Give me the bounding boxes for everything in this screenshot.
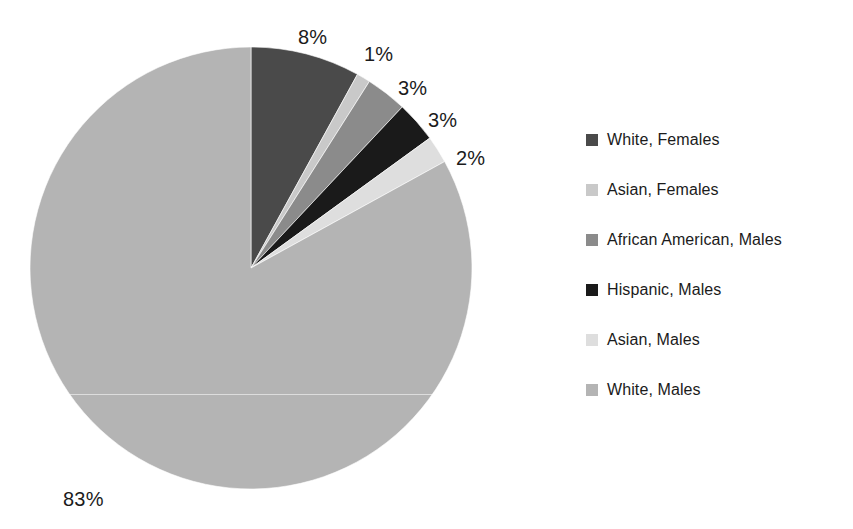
pie-data-label: 3% [428, 110, 457, 130]
legend-item[interactable]: Asian, Females [586, 181, 848, 231]
legend-item[interactable]: White, Males [586, 381, 848, 431]
legend-swatch-icon [586, 234, 598, 246]
legend-swatch-icon [586, 284, 598, 296]
pie-data-label: 8% [298, 27, 327, 47]
pie-svg [0, 0, 540, 529]
legend-swatch-icon [586, 134, 598, 146]
pie-data-label: 1% [364, 44, 393, 64]
pie-data-label: 2% [456, 148, 485, 168]
legend-item-label: Asian, Females [607, 181, 719, 198]
legend-swatch-icon [586, 334, 598, 346]
legend-item-label: Asian, Males [607, 331, 700, 348]
legend-item[interactable]: African American, Males [586, 231, 848, 281]
legend-item-label: White, Females [607, 131, 720, 148]
pie-slice-group [30, 47, 472, 489]
legend-item[interactable]: Hispanic, Males [586, 281, 848, 331]
pie-data-label: 3% [398, 78, 427, 98]
legend-item-label: White, Males [607, 381, 701, 398]
legend-item-label: African American, Males [607, 231, 782, 248]
chart-legend: White, FemalesAsian, FemalesAfrican Amer… [586, 131, 848, 431]
legend-swatch-icon [586, 184, 598, 196]
legend-swatch-icon [586, 384, 598, 396]
legend-item[interactable]: Asian, Males [586, 331, 848, 381]
legend-item[interactable]: White, Females [586, 131, 848, 181]
legend-item-label: Hispanic, Males [607, 281, 721, 298]
pie-data-label: 83% [63, 489, 104, 509]
pie-chart-figure: 8%1%3%3%2%83% White, FemalesAsian, Femal… [0, 0, 853, 529]
pie-plot-area: 8%1%3%3%2%83% [0, 0, 540, 529]
